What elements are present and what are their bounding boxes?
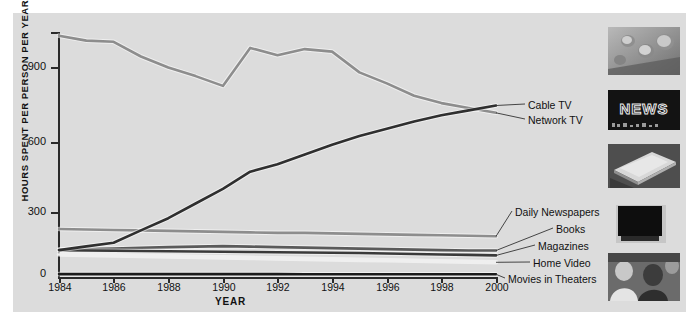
legend-label-cable-tv: Cable TV (528, 99, 572, 111)
leader-line-network-tv (496, 113, 525, 119)
legend-label-books: Books (556, 223, 585, 235)
leader-line-cable-tv (496, 104, 525, 106)
leader-line-daily-newspapers (496, 211, 512, 236)
legend-label-movies-in-theaters: Movies in Theaters (508, 273, 597, 285)
movie-audience-photo (608, 253, 680, 301)
news-neon-sign-photo: NEWS (608, 90, 680, 130)
legend-label-daily-newspapers: Daily Newspapers (515, 206, 600, 218)
chart-figure: HOURS SPENT PER PERSON PER YEAR 900 600 … (0, 0, 699, 325)
television-screen-photo (616, 205, 666, 243)
legend-label-home-video: Home Video (533, 257, 591, 269)
game-controller-photo (608, 27, 680, 75)
series-line-daily-newspapers (59, 229, 496, 236)
legend-label-magazines: Magazines (538, 240, 589, 252)
leader-line-magazines (496, 245, 535, 255)
magazine-stack-photo (608, 144, 680, 188)
legend-label-network-tv: Network TV (528, 114, 583, 126)
series-line-network-tv (59, 36, 496, 113)
svg-text:NEWS: NEWS (620, 100, 669, 117)
